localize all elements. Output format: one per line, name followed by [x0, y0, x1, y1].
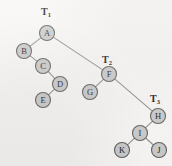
node-label: C — [40, 61, 46, 71]
subtree-label-t1: T1 — [41, 6, 51, 18]
tree-edge — [48, 71, 55, 78]
node-label: B — [21, 46, 27, 56]
subtree-label-t3: T3 — [150, 93, 161, 105]
tree-diagram-canvas: ABCDEFGHIKJ T1T2T3 — [0, 0, 172, 166]
subtree-label-t2: T2 — [102, 54, 112, 66]
tree-diagram-figure: ABCDEFGHIKJ T1T2T3 — [0, 0, 172, 166]
tree-node-c[interactable]: C — [36, 59, 51, 74]
tree-node-j[interactable]: J — [152, 143, 167, 158]
tree-node-b[interactable]: B — [17, 44, 32, 59]
tree-edge — [95, 79, 103, 87]
tree-edge — [127, 138, 134, 145]
tree-node-e[interactable]: E — [36, 93, 51, 108]
tree-edge — [30, 56, 37, 62]
node-label: A — [44, 28, 51, 38]
node-label: K — [119, 145, 126, 155]
subtree-label-subscript: 3 — [157, 98, 161, 105]
node-label: F — [107, 69, 112, 79]
node-label: I — [139, 128, 142, 138]
tree-node-d[interactable]: D — [53, 77, 68, 92]
tree-edge — [146, 138, 154, 145]
tree-node-k[interactable]: K — [115, 143, 130, 158]
tree-node-i[interactable]: I — [133, 126, 148, 141]
tree-edge — [53, 37, 102, 70]
subtree-label-subscript: 2 — [109, 59, 112, 66]
node-label: E — [40, 95, 45, 105]
subtree-label-subscript: 1 — [48, 11, 51, 18]
tree-node-g[interactable]: G — [83, 85, 98, 100]
node-label: D — [57, 79, 63, 89]
nodes-group: ABCDEFGHIKJ — [17, 26, 167, 158]
tree-edge — [30, 38, 41, 47]
node-label: G — [87, 87, 93, 97]
tree-node-a[interactable]: A — [40, 26, 55, 41]
tree-edge — [115, 79, 153, 111]
tree-edge — [145, 121, 152, 128]
tree-node-h[interactable]: H — [151, 109, 166, 124]
tree-node-f[interactable]: F — [102, 67, 117, 82]
tree-edge — [48, 89, 54, 95]
node-label: H — [155, 111, 161, 121]
